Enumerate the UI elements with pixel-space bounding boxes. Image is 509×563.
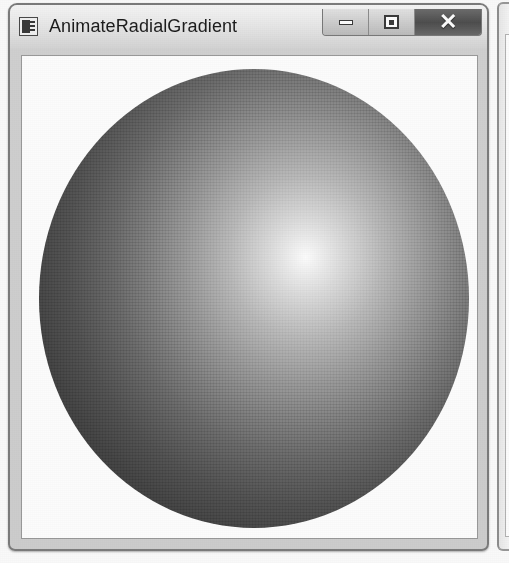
close-button[interactable]: ✕	[415, 9, 481, 35]
app-window[interactable]: AnimateRadialGradient ✕	[8, 3, 489, 551]
window-controls: ✕	[322, 9, 482, 36]
application-window-icon	[19, 17, 38, 36]
window-title: AnimateRadialGradient	[49, 16, 237, 37]
adjacent-window-client-area	[505, 34, 509, 537]
adjacent-window-sliver[interactable]	[497, 2, 509, 551]
minimize-button[interactable]	[323, 9, 369, 35]
radial-gradient-ellipse	[39, 69, 469, 528]
close-icon: ✕	[439, 11, 457, 33]
client-area	[21, 55, 478, 539]
maximize-icon	[384, 15, 399, 29]
maximize-button[interactable]	[369, 9, 415, 35]
gradient-noise-overlay	[39, 69, 469, 528]
minimize-icon	[339, 20, 353, 25]
